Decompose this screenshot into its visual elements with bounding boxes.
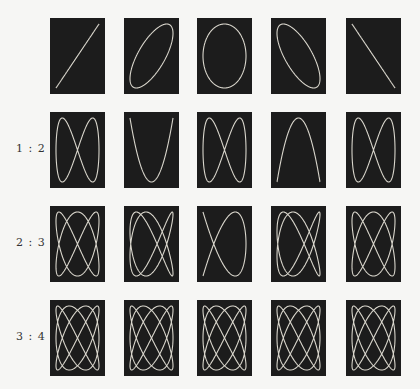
lissajous-curve — [50, 18, 105, 94]
lissajous-panel — [197, 206, 252, 282]
lissajous-curve — [124, 112, 179, 188]
lissajous-curve — [50, 206, 105, 282]
lissajous-curve — [197, 206, 252, 282]
lissajous-panel — [271, 206, 326, 282]
lissajous-panel — [50, 112, 105, 188]
lissajous-curve — [271, 300, 326, 376]
lissajous-curve — [271, 112, 326, 188]
lissajous-curve — [50, 300, 105, 376]
lissajous-curve — [124, 18, 179, 94]
lissajous-panel — [50, 206, 105, 282]
lissajous-panel — [50, 300, 105, 376]
lissajous-curve — [124, 300, 179, 376]
lissajous-panel — [197, 300, 252, 376]
lissajous-curve — [271, 206, 326, 282]
lissajous-curve — [197, 300, 252, 376]
lissajous-panel — [50, 18, 105, 94]
lissajous-panel — [124, 18, 179, 94]
lissajous-panel — [271, 300, 326, 376]
lissajous-curve — [271, 18, 326, 94]
lissajous-curve — [124, 206, 179, 282]
lissajous-curve — [346, 300, 401, 376]
lissajous-panel — [124, 300, 179, 376]
lissajous-panel — [271, 18, 326, 94]
lissajous-panel — [346, 18, 401, 94]
lissajous-curve — [346, 206, 401, 282]
lissajous-panel — [271, 112, 326, 188]
lissajous-curve — [50, 112, 105, 188]
lissajous-curve — [197, 112, 252, 188]
lissajous-panel — [124, 112, 179, 188]
lissajous-curve — [346, 18, 401, 94]
lissajous-panel — [197, 18, 252, 94]
lissajous-curve — [346, 112, 401, 188]
lissajous-panel — [124, 206, 179, 282]
lissajous-panel — [346, 300, 401, 376]
lissajous-panel — [197, 112, 252, 188]
lissajous-figure-grid: 1 : 22 : 33 : 4 — [0, 0, 420, 389]
lissajous-panel — [346, 206, 401, 282]
lissajous-panel — [346, 112, 401, 188]
lissajous-curve — [197, 18, 252, 94]
